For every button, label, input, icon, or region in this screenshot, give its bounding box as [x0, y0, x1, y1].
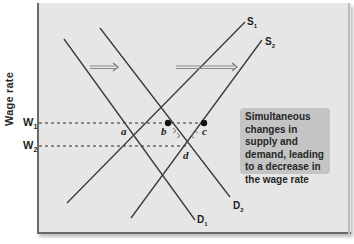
w2-label: W2 — [23, 139, 37, 153]
d2-label: D2 — [233, 200, 244, 213]
d1-label: D1 — [197, 214, 208, 227]
s2-label: S2 — [265, 36, 275, 49]
w1-sub: 1 — [33, 123, 37, 130]
d2-sub: 2 — [240, 207, 243, 213]
w1-main: W — [23, 116, 33, 128]
s2-sub: 2 — [272, 43, 275, 49]
s1-main: S — [247, 16, 254, 27]
annotation-box: Simultaneous changes in supply and deman… — [240, 108, 330, 174]
w2-sub: 2 — [33, 146, 37, 153]
y-axis-label: Wage rate — [3, 69, 17, 129]
point-d-label: d — [183, 149, 189, 161]
point-a-label: a — [121, 125, 127, 137]
d1-sub: 1 — [204, 221, 207, 227]
supply-shift-arrow-icon — [176, 63, 237, 71]
w1-label: W1 — [23, 116, 37, 130]
s2-main: S — [265, 36, 272, 47]
point-b-label: b — [161, 125, 167, 137]
w2-main: W — [23, 139, 33, 151]
s1-curve — [67, 22, 245, 203]
point-c-label: c — [202, 125, 207, 137]
s1-sub: 1 — [254, 23, 257, 29]
s1-label: S1 — [247, 16, 257, 29]
demand-shift-arrow-icon — [90, 63, 118, 71]
